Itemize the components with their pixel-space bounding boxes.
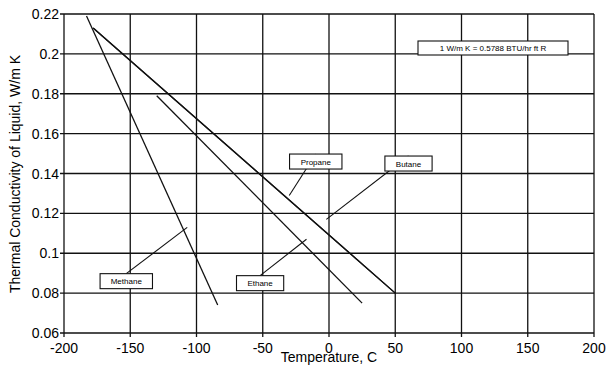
series-label-ethane: Ethane — [247, 279, 273, 288]
x-tick-label: 200 — [582, 340, 606, 356]
y-tick-label: 0.16 — [32, 126, 59, 142]
x-tick-label: 150 — [516, 340, 540, 356]
x-tick-label: -100 — [182, 340, 210, 356]
y-tick-label: 0.1 — [40, 245, 60, 261]
chart: MethaneEthanePropaneButane -200-150-100-… — [0, 0, 608, 379]
y-tick-label: 0.14 — [32, 166, 59, 182]
series-label-propane: Propane — [301, 158, 332, 167]
y-tick-label: 0.08 — [32, 285, 59, 301]
x-tick-label: -150 — [116, 340, 144, 356]
x-tick-label: -50 — [253, 340, 273, 356]
series-label-methane: Methane — [111, 277, 143, 286]
y-tick-label: 0.22 — [32, 6, 59, 22]
series-line-ethane — [157, 96, 362, 303]
y-tick-label: 0.06 — [32, 325, 59, 341]
y-axis-label: Thermal Conductivity of Liquid, W/m K — [7, 54, 23, 293]
series-label-butane: Butane — [396, 160, 422, 169]
series-line-methane — [87, 16, 218, 305]
y-tick-label: 0.2 — [40, 46, 60, 62]
svg-text:1 W/m K = 0.5788 BTU/hr ft R: 1 W/m K = 0.5788 BTU/hr ft R — [440, 44, 547, 53]
x-tick-label: -200 — [50, 340, 78, 356]
series-labels: MethaneEthanePropaneButane — [100, 154, 432, 291]
tick-labels: -200-150-100-500501001502000.060.080.10.… — [32, 6, 606, 356]
data-lines — [87, 16, 396, 305]
x-tick-label: 100 — [450, 340, 474, 356]
x-axis-label: Temperature, C — [281, 349, 377, 365]
y-tick-label: 0.18 — [32, 86, 59, 102]
unit-conversion-note: 1 W/m K = 0.5788 BTU/hr ft R — [418, 41, 568, 55]
x-tick-label: 50 — [387, 340, 403, 356]
y-tick-label: 0.12 — [32, 205, 59, 221]
